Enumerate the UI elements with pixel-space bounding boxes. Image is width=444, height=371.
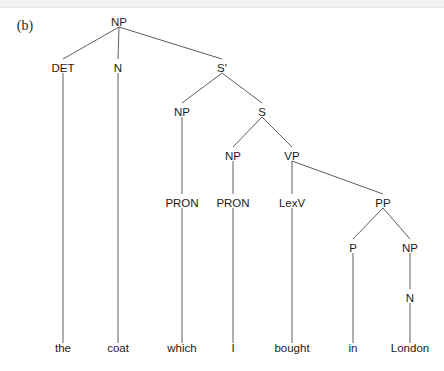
tree-node-np: NP	[111, 16, 127, 28]
tree-branch	[222, 73, 262, 103]
tree-node-layer: NPDETNS'NPSNPVPPRONPRONLexVPPPNPN	[52, 16, 419, 304]
tree-terminal-i: I	[231, 342, 234, 354]
tree-node-pron: PRON	[165, 197, 198, 209]
page-top-band	[0, 0, 444, 7]
tree-node-lexv: LexV	[279, 197, 306, 209]
tree-node-p: P	[349, 242, 357, 254]
tree-node-s: S	[258, 106, 266, 118]
tree-terminal-bought: bought	[274, 342, 310, 354]
tree-branch	[63, 27, 119, 59]
tree-terminal-london: London	[391, 342, 429, 354]
tree-terminal-the: the	[55, 342, 71, 354]
tree-node-pron: PRON	[216, 197, 249, 209]
tree-edge-layer	[63, 27, 410, 343]
tree-node-n: N	[406, 292, 414, 304]
syntax-tree-figure: NPDETNS'NPSNPVPPRONPRONLexVPPPNPN thecoa…	[0, 0, 444, 371]
tree-node-np: NP	[174, 106, 190, 118]
tree-branch	[118, 27, 119, 59]
tree-terminal-which: which	[166, 342, 196, 354]
tree-node-np: NP	[225, 150, 241, 162]
syntax-tree-canvas: NPDETNS'NPSNPVPPRONPRONLexVPPPNPN thecoa…	[0, 0, 444, 371]
tree-branch	[383, 208, 410, 239]
figure-label: (b)	[17, 18, 34, 34]
tree-node-n: N	[114, 62, 122, 74]
tree-branch	[233, 117, 262, 147]
tree-branch	[262, 117, 292, 147]
tree-node-pp: PP	[375, 197, 391, 209]
tree-node-vp: VP	[284, 150, 300, 162]
tree-terminal-in: in	[349, 342, 358, 354]
page-top-rule	[0, 7, 444, 8]
tree-node-det: DET	[52, 62, 75, 74]
tree-node-sbar: S'	[217, 62, 227, 74]
tree-terminal-layer: thecoatwhichIboughtinLondon	[55, 342, 429, 354]
tree-terminal-coat: coat	[107, 342, 130, 354]
tree-branch	[182, 73, 222, 103]
tree-branch	[119, 27, 222, 59]
tree-branch	[292, 161, 383, 194]
tree-node-np: NP	[402, 242, 418, 254]
tree-branch	[353, 208, 383, 239]
